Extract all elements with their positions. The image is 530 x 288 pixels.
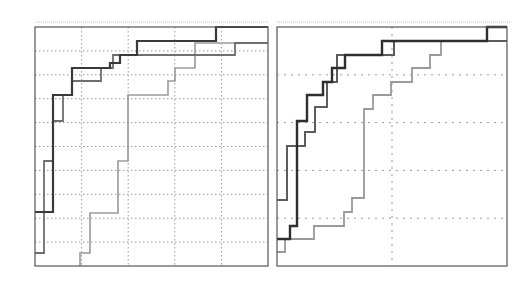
right-chart-grid bbox=[277, 27, 507, 266]
series-light-line bbox=[80, 43, 268, 266]
left-chart-grid bbox=[35, 27, 268, 266]
series-medium-line bbox=[277, 41, 507, 200]
right-ecdf-chart bbox=[277, 27, 507, 266]
left-ecdf-chart bbox=[35, 27, 268, 266]
chart-canvas bbox=[0, 0, 530, 288]
